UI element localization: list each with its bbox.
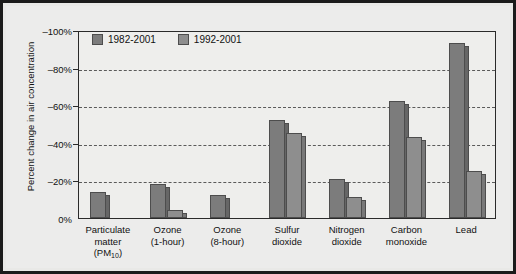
y-tick-label: –20% (20, 176, 72, 187)
y-tick-label: –100% (20, 26, 72, 37)
legend-item: 1982-2001 (92, 34, 156, 45)
bar-group (437, 32, 497, 218)
bar (150, 184, 166, 218)
bar (389, 101, 405, 218)
bar-side (106, 195, 110, 218)
bar-face (329, 179, 345, 218)
x-tick-label: Particulatematter(PM10) (78, 224, 138, 262)
bar-face (449, 43, 465, 218)
chart-figure: Percent change in air concentration 0%–2… (0, 0, 516, 274)
bar-group (139, 32, 199, 218)
legend-label: 1982-2001 (108, 34, 156, 45)
bar-face (389, 101, 405, 218)
legend-swatch (92, 34, 103, 45)
x-tick-label: Sulfurdioxide (257, 224, 317, 247)
bar-group (198, 32, 258, 218)
bar-group (79, 32, 139, 218)
bar-group (378, 32, 438, 218)
bar (346, 197, 362, 218)
bar (210, 195, 226, 218)
legend-item: 1992-2001 (178, 34, 242, 45)
bar-face (167, 210, 183, 218)
legend-swatch (178, 34, 189, 45)
chart-panel: Percent change in air concentration 0%–2… (6, 6, 510, 268)
bar-face (466, 171, 482, 218)
bar-side (226, 198, 230, 218)
y-tick-label: –80% (20, 63, 72, 74)
bar (90, 192, 106, 218)
bar-group (318, 32, 378, 218)
bar (406, 137, 422, 218)
x-tick-label: Ozone(1-hour) (138, 224, 198, 247)
x-tick-label: Ozone(8-hour) (197, 224, 257, 247)
x-tick-label: Lead (436, 224, 496, 236)
bar-face (210, 195, 226, 218)
bar-side (362, 200, 366, 218)
plot-area (78, 31, 496, 219)
bar-side (482, 174, 486, 218)
bar (269, 120, 285, 218)
bar-side (302, 136, 306, 218)
bar-face (269, 120, 285, 218)
bar-face (286, 133, 302, 218)
y-tick-label: –40% (20, 138, 72, 149)
bar-side (183, 213, 187, 218)
legend-label: 1992-2001 (194, 34, 242, 45)
bar (286, 133, 302, 218)
x-tick-label: Nitrogendioxide (317, 224, 377, 247)
y-tick-label: –60% (20, 101, 72, 112)
bar-face (406, 137, 422, 218)
bar-group (258, 32, 318, 218)
bar-side (422, 140, 426, 218)
bar (466, 171, 482, 218)
bar (329, 179, 345, 218)
y-tick-label: 0% (20, 214, 72, 225)
bar-face (346, 197, 362, 218)
chart-legend: 1982-20011992-2001 (92, 34, 242, 45)
bar-face (90, 192, 106, 218)
x-tick-label: Carbonmonoxide (377, 224, 437, 247)
bar (449, 43, 465, 218)
bar-face (150, 184, 166, 218)
bar (167, 210, 183, 218)
